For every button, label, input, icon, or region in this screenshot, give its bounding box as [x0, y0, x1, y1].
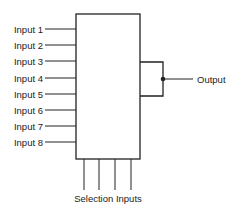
input-label-4: Input 4 — [14, 73, 43, 84]
input-label-6: Input 6 — [14, 105, 43, 116]
input-label-1: Input 1 — [14, 24, 43, 35]
input-labels: Input 1 Input 2 Input 3 Input 4 Input 5 … — [14, 24, 43, 148]
input-label-5: Input 5 — [14, 89, 43, 100]
selection-inputs-label: Selection Inputs — [74, 193, 142, 204]
input-lines — [45, 29, 76, 142]
selection-lines — [84, 159, 131, 190]
input-label-2: Input 2 — [14, 40, 43, 51]
input-label-7: Input 7 — [14, 121, 43, 132]
multiplexer-diagram: Input 1 Input 2 Input 3 Input 4 Input 5 … — [0, 0, 237, 209]
output-bracket — [140, 62, 163, 96]
mux-block — [76, 14, 140, 159]
output-label: Output — [197, 74, 226, 85]
input-label-8: Input 8 — [14, 137, 43, 148]
input-label-3: Input 3 — [14, 56, 43, 67]
